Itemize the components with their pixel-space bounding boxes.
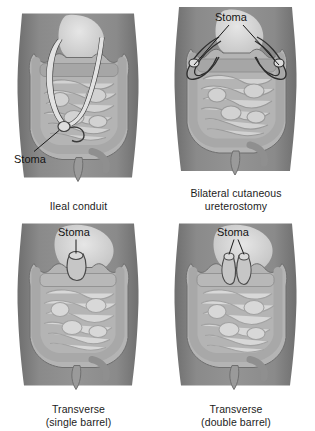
illustration-bilateral-cutaneous-ureterostomy: Stoma (157, 0, 315, 186)
illustration-transverse-double-barrel: Stoma (157, 215, 315, 402)
rectum (231, 151, 240, 175)
stoma-label-text: Stoma (215, 11, 248, 23)
rectum (74, 158, 83, 182)
panel-bilateral-cutaneous-ureterostomy: Stoma Bilateral cutaneous ureterostomy (157, 0, 315, 215)
stoma-site-right (274, 59, 284, 67)
rectum (230, 366, 239, 390)
panel-caption-ileal-conduit: Ileal conduit (50, 199, 107, 215)
stoma-label-text: Stoma (217, 226, 250, 238)
stoma-site-1 (58, 122, 70, 132)
panel-caption-transverse-single-barrel: Transverse (single barrel) (46, 402, 112, 431)
panel-transverse-single-barrel: Stoma Transverse (single barrel) (0, 215, 157, 431)
stoma-label-text: Stoma (14, 153, 47, 165)
panel-caption-bilateral-cutaneous-ureterostomy: Bilateral cutaneous ureterostomy (190, 186, 281, 215)
stoma-label-text: Stoma (58, 226, 91, 238)
panel-ileal-conduit: Stoma Ileal conduit (0, 0, 157, 215)
illustration-transverse-single-barrel: Stoma (0, 215, 157, 402)
stoma-site-left (189, 59, 199, 67)
rectum (72, 366, 81, 390)
illustration-ileal-conduit: Stoma (0, 0, 157, 199)
panel-transverse-double-barrel: Stoma Transverse (double barrel) (157, 215, 315, 431)
panel-caption-transverse-double-barrel: Transverse (double barrel) (201, 402, 271, 431)
figure-grid: Stoma Ileal conduit (0, 0, 315, 431)
